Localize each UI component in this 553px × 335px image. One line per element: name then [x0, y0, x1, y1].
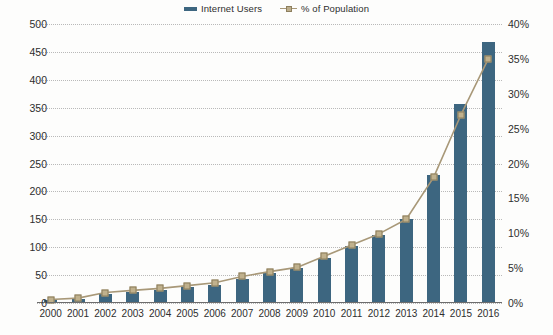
line-marker[interactable] — [321, 253, 328, 260]
line-marker[interactable] — [75, 295, 82, 302]
line-marker[interactable] — [485, 55, 492, 62]
y2-axis-tick-label: 15% — [508, 192, 550, 204]
x-axis-tick-label: 2011 — [341, 308, 363, 319]
x-axis-tick-label: 2005 — [176, 308, 198, 319]
line-marker[interactable] — [184, 282, 191, 289]
legend-item-internet-users[interactable]: Internet Users — [184, 3, 262, 14]
line-marker[interactable] — [457, 111, 464, 118]
line-marker[interactable] — [293, 264, 300, 271]
y2-axis-tick-label: 30% — [508, 88, 550, 100]
line-square-marker-icon — [280, 5, 297, 12]
y2-axis-tick-label: 0% — [508, 297, 550, 309]
line-marker[interactable] — [129, 287, 136, 294]
y2-axis-tick-label: 25% — [508, 123, 550, 135]
line-marker[interactable] — [211, 279, 218, 286]
line-marker[interactable] — [157, 285, 164, 292]
y2-axis-tick-label: 10% — [508, 227, 550, 239]
chart-container: Internet Users % of Population 050100150… — [0, 0, 553, 335]
bar-swatch-icon — [184, 7, 197, 11]
line-marker[interactable] — [266, 268, 273, 275]
line-marker[interactable] — [102, 289, 109, 296]
x-axis-tick-label: 2010 — [313, 308, 335, 319]
plot-area — [37, 24, 502, 303]
x-axis-tick-label: 2000 — [40, 308, 62, 319]
x-axis-tick-label: 2012 — [368, 308, 390, 319]
legend-label-internet-users: Internet Users — [201, 3, 262, 14]
legend-item-pct-population[interactable]: % of Population — [280, 3, 369, 14]
gridline — [37, 303, 502, 304]
y2-axis-tick-label: 40% — [508, 18, 550, 30]
y2-axis-tick-label: 20% — [508, 158, 550, 170]
x-axis-tick-label: 2002 — [94, 308, 116, 319]
x-axis-tick-label: 2015 — [450, 308, 472, 319]
line-series-pct-population — [37, 24, 502, 303]
y2-axis-tick-label: 5% — [508, 262, 550, 274]
line-marker[interactable] — [375, 230, 382, 237]
y2-axis-tick-label: 35% — [508, 53, 550, 65]
x-axis-line — [37, 302, 502, 303]
x-axis-tick-label: 2008 — [258, 308, 280, 319]
x-axis-tick-label: 2001 — [67, 308, 89, 319]
line-marker[interactable] — [430, 174, 437, 181]
x-axis-tick-label: 2003 — [122, 308, 144, 319]
x-axis-tick-label: 2013 — [395, 308, 417, 319]
legend-label-pct-population: % of Population — [301, 3, 369, 14]
x-axis-tick-label: 2007 — [231, 308, 253, 319]
x-axis-tick-label: 2006 — [204, 308, 226, 319]
line-marker[interactable] — [239, 273, 246, 280]
x-axis-tick-label: 2009 — [286, 308, 308, 319]
chart-legend: Internet Users % of Population — [0, 3, 553, 14]
x-axis-tick-label: 2014 — [422, 308, 444, 319]
x-axis-tick-label: 2016 — [477, 308, 499, 319]
line-marker[interactable] — [403, 216, 410, 223]
x-axis-tick-label: 2004 — [149, 308, 171, 319]
line-marker[interactable] — [348, 242, 355, 249]
